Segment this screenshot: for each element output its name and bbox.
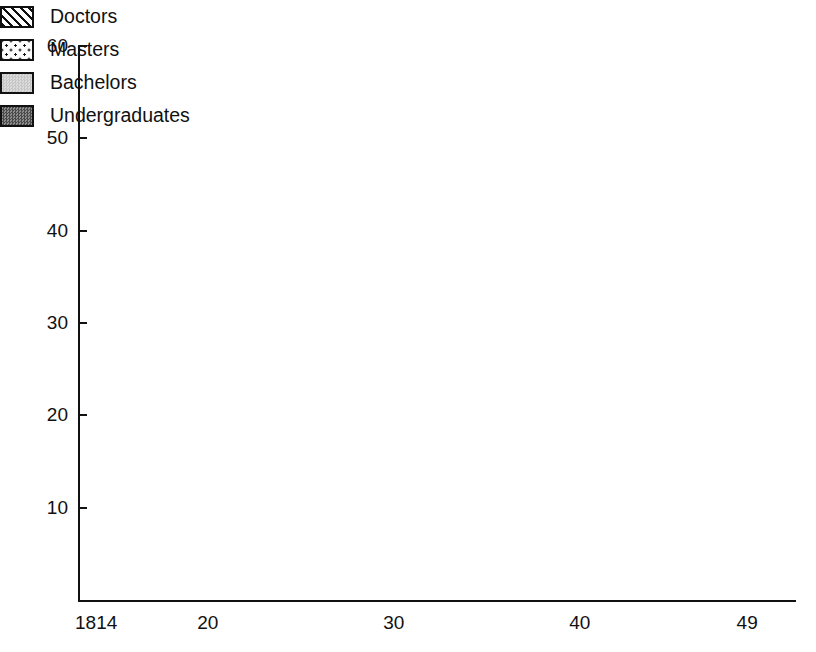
y-axis-tick-label: 40 xyxy=(22,220,68,242)
doctors-swatch xyxy=(0,6,34,28)
y-axis-tick-label: 10 xyxy=(22,497,68,519)
legend-label: Undergraduates xyxy=(50,104,190,127)
legend-item-undergraduates[interactable]: Undergraduates xyxy=(0,99,190,132)
legend-label: Bachelors xyxy=(50,71,137,94)
legend-item-doctors[interactable]: Doctors xyxy=(0,0,190,33)
y-axis-tick-mark xyxy=(78,414,87,416)
chart-legend: DoctorsMastersBachelorsUndergraduates xyxy=(0,0,190,132)
legend-item-masters[interactable]: Masters xyxy=(0,33,190,66)
x-axis-tick-label: 20 xyxy=(197,612,218,634)
y-axis-tick-mark xyxy=(78,230,87,232)
legend-label: Masters xyxy=(50,38,119,61)
x-axis-tick-label: 49 xyxy=(737,612,758,634)
x-axis-tick-label: 1814 xyxy=(75,612,117,634)
y-axis-tick-label: 20 xyxy=(22,404,68,426)
y-axis-tick-label: 30 xyxy=(22,312,68,334)
legend-item-bachelors[interactable]: Bachelors xyxy=(0,66,190,99)
bachelors-swatch xyxy=(0,72,34,94)
x-axis-line xyxy=(78,600,796,602)
masters-swatch xyxy=(0,39,34,61)
x-axis-tick-label: 30 xyxy=(383,612,404,634)
legend-label: Doctors xyxy=(50,5,117,28)
x-axis-tick-label: 40 xyxy=(569,612,590,634)
undergraduates-swatch xyxy=(0,105,34,127)
y-axis-tick-mark xyxy=(78,137,87,139)
chart-canvas: 102030405060181420304049 DoctorsMastersB… xyxy=(0,0,816,652)
y-axis-tick-mark xyxy=(78,322,87,324)
y-axis-tick-mark xyxy=(78,507,87,509)
